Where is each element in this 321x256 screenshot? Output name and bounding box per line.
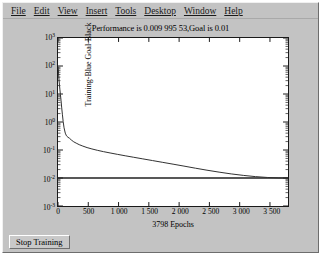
menu-item-edit[interactable]: Edit <box>30 4 54 18</box>
plot-figure: Performance is 0.009 995 53,Goal is 0.01… <box>3 20 318 235</box>
x-tick-label: 1 000 <box>111 208 128 216</box>
menu-item-tools-label: Tools <box>115 6 136 16</box>
figure-window: File Edit View Insert Tools Desktop Wind… <box>0 0 321 256</box>
menu-item-desktop-label: Desktop <box>144 6 176 16</box>
window-frame: File Edit View Insert Tools Desktop Wind… <box>2 2 319 253</box>
training-line-series <box>58 67 288 178</box>
menu-item-desktop[interactable]: Desktop <box>140 4 180 18</box>
menu-item-file-label: File <box>11 6 26 16</box>
y-tick-label: 102 <box>45 63 55 71</box>
y-tick-label: 10-2 <box>43 176 55 184</box>
y-axis-label: Training-Blue Goal-Black <box>84 2 93 128</box>
menu-item-view[interactable]: View <box>54 4 82 18</box>
menu-item-window-label: Window <box>184 6 216 16</box>
x-tick-label: 2 000 <box>172 208 189 216</box>
menu-item-edit-label: Edit <box>34 6 50 16</box>
menu-item-help-label: Help <box>224 6 242 16</box>
y-tick-label: 100 <box>45 119 55 127</box>
y-tick-label: 101 <box>45 91 55 99</box>
y-tick-label: 10-1 <box>43 148 55 156</box>
menu-item-window[interactable]: Window <box>180 4 220 18</box>
x-tick-label: 0 <box>56 208 60 216</box>
y-tick-label: 10-3 <box>43 204 55 212</box>
x-tick-label: 3 500 <box>263 208 280 216</box>
y-tick-label: 103 <box>45 34 55 42</box>
stop-training-button[interactable]: Stop Training <box>9 235 70 249</box>
axis-ticks <box>58 38 288 206</box>
menu-item-view-label: View <box>58 6 78 16</box>
chart-title: Performance is 0.009 995 53,Goal is 0.01 <box>3 23 318 33</box>
x-tick-label: 1 500 <box>141 208 158 216</box>
menu-item-file[interactable]: File <box>7 4 30 18</box>
menu-item-help[interactable]: Help <box>220 4 246 18</box>
x-tick-label: 2 500 <box>202 208 219 216</box>
menu-item-tools[interactable]: Tools <box>111 4 140 18</box>
chart-plot-svg <box>58 38 288 206</box>
chart-axes: Training-Blue Goal-Black 10310210110010-… <box>57 37 289 207</box>
x-tick-label: 500 <box>83 208 94 216</box>
menu-bar: File Edit View Insert Tools Desktop Wind… <box>3 3 318 19</box>
x-tick-label: 3 000 <box>233 208 250 216</box>
bottom-bar: Stop Training <box>3 233 318 252</box>
x-axis-label: 3798 Epochs <box>57 220 289 229</box>
